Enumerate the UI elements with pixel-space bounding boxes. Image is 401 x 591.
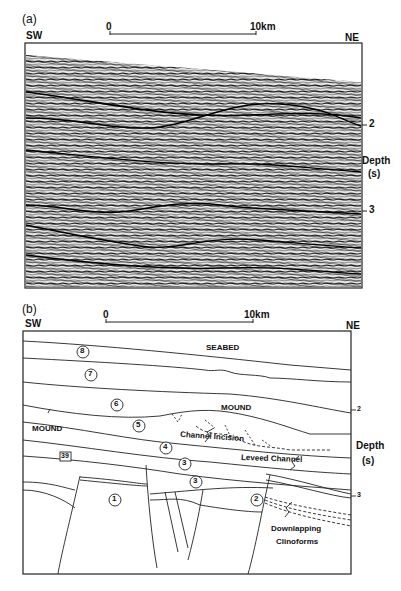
mound-center-label: MOUND [221, 403, 251, 412]
clinoforms-label: Clinoforms [276, 537, 318, 546]
unit-4: 4 [163, 442, 167, 451]
panel-b-sw-label: SW [25, 318, 41, 329]
panel-b-depth-tick-3: 3 [357, 491, 361, 498]
unit-2: 2 [254, 494, 258, 503]
unit-8: 8 [80, 346, 84, 355]
panel-b-depth-title: Depth [356, 440, 384, 451]
panel-b-label: (b) [22, 302, 37, 316]
unit-3-upper: 3 [182, 458, 186, 467]
seabed-label: SEABED [206, 343, 239, 352]
unit-6: 6 [114, 399, 118, 408]
unit-7: 7 [88, 369, 92, 378]
downlapping-label: Downlapping [271, 524, 321, 533]
well-39: 39 [61, 452, 69, 459]
panel-b-scale-end: 10km [244, 309, 270, 320]
panel-b-depth-tick-2: 2 [357, 405, 361, 412]
panel-a-depth-unit: (s) [368, 168, 380, 179]
panel-b-ne-label: NE [346, 320, 360, 331]
panel-a-scale-bar [110, 31, 256, 35]
unit-3-lower: 3 [193, 476, 197, 485]
unit-5: 5 [136, 420, 140, 429]
figure-graphics [0, 0, 401, 591]
mound-left-label: MOUND [32, 424, 62, 433]
panel-b-depth-unit: (s) [362, 455, 374, 466]
panel-b-scale-start: 0 [103, 309, 109, 320]
panel-a-depth-title: Depth [362, 155, 390, 166]
panel-a-depth-tick-2: 2 [369, 118, 375, 129]
unit-1: 1 [112, 494, 116, 503]
panel-b-scale-bar [106, 319, 253, 323]
panel-a-depth-tick-3: 3 [369, 204, 375, 215]
seismic-profile-image [25, 43, 362, 288]
